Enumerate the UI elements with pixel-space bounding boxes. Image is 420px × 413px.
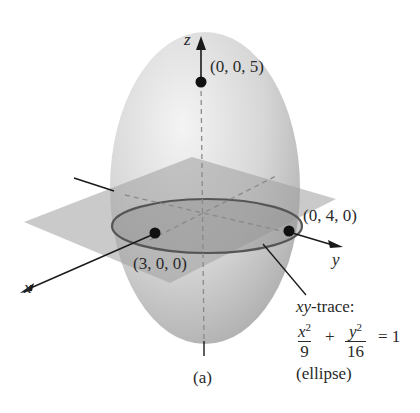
y-axis-label: y — [332, 250, 340, 270]
xy-trace-title-rest: -trace: — [311, 297, 354, 316]
y-axis-arrowhead — [328, 240, 343, 248]
point-0-0-5 — [196, 77, 207, 88]
fraction-x-over-9: x2 9 — [296, 318, 313, 362]
point-3-0-0 — [150, 228, 161, 239]
x-axis-label: x — [24, 278, 32, 298]
z-axis-label: z — [184, 30, 191, 50]
xy-trace-title-italic: xy — [296, 297, 311, 316]
figure-caption: (a) — [193, 368, 212, 388]
ellipse-note: (ellipse) — [296, 364, 352, 384]
point-0-4-0 — [284, 226, 295, 237]
fraction-x-denominator: 9 — [298, 341, 311, 362]
point-label-3-0-0: (3, 0, 0) — [133, 254, 187, 274]
fraction-y-numerator: y2 — [347, 318, 364, 341]
y-axis — [289, 232, 336, 246]
plus-sign: + — [325, 327, 335, 347]
fraction-y-denominator: 16 — [345, 341, 366, 362]
xy-trace-title: xy-trace: — [296, 297, 355, 317]
equals-one: = 1 — [378, 327, 400, 347]
fraction-y-over-16: y2 16 — [345, 318, 366, 362]
x-axis-back — [74, 178, 114, 191]
fraction-x-numerator: x2 — [296, 318, 313, 341]
point-label-0-4-0: (0, 4, 0) — [303, 206, 357, 226]
point-label-0-0-5: (0, 0, 5) — [210, 57, 264, 77]
